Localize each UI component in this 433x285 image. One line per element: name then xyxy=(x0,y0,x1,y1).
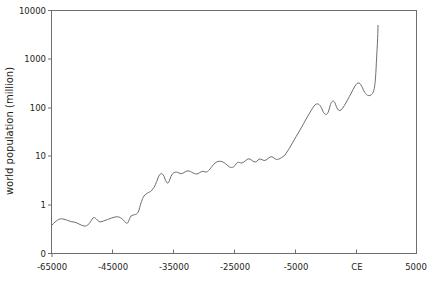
y-tick-label: 0 xyxy=(41,249,46,259)
y-axis-title: world population (million) xyxy=(4,67,15,195)
x-tick-label: CE xyxy=(351,262,362,272)
x-tick-label: 5000 xyxy=(405,262,427,272)
x-tick-label: -65000 xyxy=(37,262,67,272)
population-chart: 10000 1000 100 10 1 0 world population (… xyxy=(0,0,433,285)
x-tick-label: -45000 xyxy=(98,262,128,272)
y-axis xyxy=(48,11,52,254)
x-tick-label: -35000 xyxy=(159,262,189,272)
y-tick-label: 100 xyxy=(30,103,46,113)
y-tick-labels: 10000 1000 100 10 1 0 xyxy=(19,6,46,259)
x-tick-labels: -65000 -45000 -35000 -25000 -5000 CE 500… xyxy=(37,262,427,272)
y-tick-label: 10 xyxy=(35,151,46,161)
plot-frame xyxy=(52,11,417,254)
y-tick-label: 10000 xyxy=(19,6,46,16)
y-tick-label: 1000 xyxy=(24,54,46,64)
x-tick-label: -5000 xyxy=(284,262,309,272)
y-tick-label: 1 xyxy=(41,200,46,210)
population-line xyxy=(52,25,378,226)
x-tick-label: -25000 xyxy=(220,262,250,272)
